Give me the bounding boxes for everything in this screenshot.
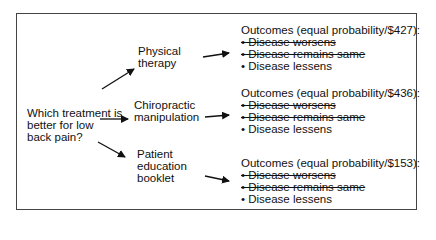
outcome-disease-lessens: • Disease lessens bbox=[241, 60, 420, 72]
outcomes-patient-education: Outcomes (equal probability/$153): • Dis… bbox=[241, 157, 420, 205]
outcome-disease-remains-same: • Disease remains same bbox=[241, 111, 420, 123]
outcome-disease-lessens: • Disease lessens bbox=[241, 123, 420, 135]
outcome-disease-lessens: • Disease lessens bbox=[241, 193, 420, 205]
question-line: Which treatment is bbox=[27, 107, 122, 119]
option-line: manipulation bbox=[134, 111, 199, 123]
option-line: booklet bbox=[137, 172, 187, 184]
arrow-to-outcomes-2 bbox=[205, 115, 229, 117]
outcomes-title: Outcomes (equal probability/$427): bbox=[241, 24, 420, 36]
question-line: better for low bbox=[27, 119, 122, 131]
outcomes-physical-therapy: Outcomes (equal probability/$427): • Dis… bbox=[241, 24, 420, 72]
outcomes-title: Outcomes (equal probability/$436): bbox=[241, 87, 420, 99]
option-line: Chiropractic bbox=[134, 99, 199, 111]
question-line: back pain? bbox=[27, 131, 122, 143]
option-line: Patient bbox=[137, 148, 187, 160]
outcome-disease-worsens: • Disease worsens bbox=[241, 36, 420, 48]
outcomes-title: Outcomes (equal probability/$153): bbox=[241, 157, 420, 169]
option-chiropractic-manipulation: Chiropractic manipulation bbox=[134, 99, 199, 123]
arrow-to-outcomes-1 bbox=[203, 53, 229, 57]
arrow-to-outcomes-3 bbox=[205, 176, 229, 181]
option-line: Physical bbox=[138, 45, 181, 57]
option-line: therapy bbox=[138, 57, 181, 69]
question-text: Which treatment is better for low back p… bbox=[27, 107, 122, 143]
outcome-disease-remains-same: • Disease remains same bbox=[241, 48, 420, 60]
arrow-to-physical-therapy bbox=[102, 69, 134, 89]
outcomes-chiropractic: Outcomes (equal probability/$436): • Dis… bbox=[241, 87, 420, 135]
option-patient-education-booklet: Patient education booklet bbox=[137, 148, 187, 184]
option-line: education bbox=[137, 160, 187, 172]
arrow-to-patient-education bbox=[98, 142, 125, 157]
outcome-disease-remains-same: • Disease remains same bbox=[241, 181, 420, 193]
outcome-disease-worsens: • Disease worsens bbox=[241, 99, 420, 111]
option-physical-therapy: Physical therapy bbox=[138, 45, 181, 69]
outcome-disease-worsens: • Disease worsens bbox=[241, 169, 420, 181]
